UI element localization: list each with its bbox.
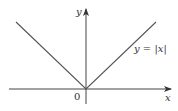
y-axis-label: y	[75, 6, 82, 17]
origin-label: 0	[74, 91, 80, 102]
graph: y x 0 y = |x|	[0, 0, 178, 111]
function-label: y = |x|	[133, 43, 167, 55]
x-axis-label: x	[165, 92, 171, 103]
